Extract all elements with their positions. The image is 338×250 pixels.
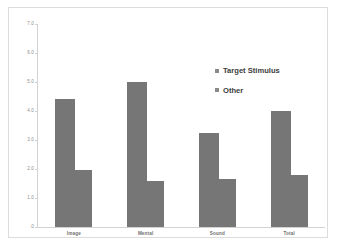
value-axis-tick-label: 1.0 (27, 196, 34, 201)
bar (75, 170, 92, 227)
value-axis-tick-mark (35, 140, 37, 141)
value-axis-tick-label: 4.0 (27, 109, 34, 114)
plot-area: 7.06.05.04.03.02.01.0.0 ImageMentalSound… (37, 24, 325, 228)
value-axis-tick-label: 5.0 (27, 80, 34, 85)
bar-group (110, 24, 182, 227)
chart-legend: Target StimulusOther (215, 67, 280, 94)
value-axis-tick-label: 6.0 (27, 51, 34, 56)
value-axis-tick-mark (35, 53, 37, 54)
bar-group (182, 24, 254, 227)
legend-label: Target Stimulus (223, 67, 280, 75)
value-axis-tick-label: 2.0 (27, 167, 34, 172)
legend-label: Other (223, 87, 243, 95)
category-axis-tick-label: Sound (182, 232, 254, 237)
bar-group (38, 24, 110, 227)
legend-entry: Target Stimulus (215, 67, 280, 75)
value-axis-tick-mark (35, 82, 37, 83)
category-axis-line (37, 227, 325, 228)
bar-group (253, 24, 325, 227)
value-axis-tick-label: 7.0 (27, 22, 34, 27)
category-axis-tick-labels: ImageMentalSoundTotal (38, 232, 325, 237)
category-axis-tick-label: Mental (110, 232, 182, 237)
value-axis-tick-label: 3.0 (27, 138, 34, 143)
category-axis-tick-label: Total (253, 232, 325, 237)
bar (147, 181, 164, 227)
category-axis-tick-label: Image (38, 232, 110, 237)
bar (55, 99, 75, 227)
value-axis-tick-label: .0 (30, 225, 34, 230)
chart-frame: 7.06.05.04.03.02.01.0.0 ImageMentalSound… (8, 7, 328, 238)
bars-layer (38, 24, 325, 227)
value-axis-tick-mark (35, 198, 37, 199)
chart-figure: 7.06.05.04.03.02.01.0.0 ImageMentalSound… (0, 0, 338, 250)
value-axis-tick-mark (35, 227, 37, 228)
bar (271, 111, 291, 227)
bar (291, 175, 308, 227)
value-axis-tick-mark (35, 111, 37, 112)
bar (127, 82, 147, 227)
bar (199, 133, 219, 227)
legend-entry: Other (215, 87, 280, 95)
value-axis-tick-mark (35, 169, 37, 170)
legend-swatch-icon (215, 69, 219, 73)
bar (219, 179, 236, 227)
legend-swatch-icon (215, 88, 219, 92)
value-axis-tick-mark (35, 24, 37, 25)
